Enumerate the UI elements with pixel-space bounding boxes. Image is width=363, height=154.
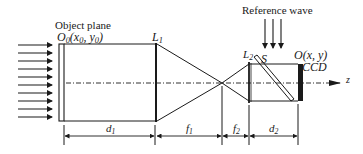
- ccd-label: CCD: [302, 61, 327, 73]
- incident-wave-arrows: [18, 45, 52, 117]
- distance-f1-label: f1: [186, 123, 193, 136]
- d1-subscript: 1: [112, 127, 116, 136]
- beam-splitter-label: S: [261, 53, 267, 65]
- lens-l2: [249, 62, 251, 103]
- distance-f2-label: f2: [233, 123, 240, 136]
- o0-x: (x: [70, 30, 79, 44]
- lens-l1-label: L1: [152, 31, 163, 46]
- object-plane-coord-label: O0(x0, y0): [57, 31, 103, 46]
- lens-l2-label: L2: [243, 49, 253, 62]
- reference-wave-label: Reference wave: [242, 5, 313, 16]
- reference-wave-arrows: [265, 19, 281, 48]
- o0-symbol: O: [57, 30, 66, 44]
- f2-subscript: 2: [236, 127, 240, 136]
- o0-close: ): [99, 30, 103, 44]
- axis-z-label: z: [346, 75, 350, 85]
- d2-subscript: 2: [275, 127, 279, 136]
- distance-d2-label: d2: [269, 123, 278, 136]
- beam-splitter: [254, 55, 294, 101]
- l2-subscript: 2: [249, 53, 253, 62]
- o0-y: , y: [83, 30, 94, 44]
- object-plane: [59, 44, 64, 121]
- l1-symbol: L: [152, 30, 159, 44]
- optical-setup-diagram: Object plane O0(x0, y0) L1 Reference wav…: [0, 0, 363, 154]
- l1-subscript: 1: [159, 36, 163, 45]
- f1-subscript: 1: [189, 127, 193, 136]
- distance-d1-label: d1: [106, 123, 115, 136]
